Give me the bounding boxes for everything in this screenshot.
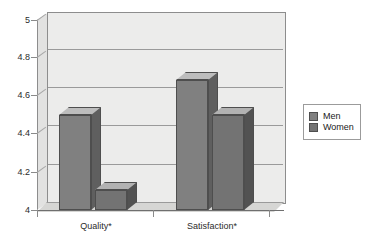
- gridline: [48, 49, 283, 50]
- gridline: [48, 87, 283, 88]
- y-tick-label: 4.6: [17, 91, 30, 100]
- y-tick-label: 4.2: [17, 168, 30, 177]
- bar-front-face: [95, 190, 127, 210]
- bar-men-satisfaction: [176, 72, 208, 210]
- bar-women-quality: [95, 182, 127, 210]
- y-tick-label: 4: [25, 206, 30, 215]
- bar-men-quality: [59, 107, 91, 210]
- legend-swatch-men: [309, 112, 318, 121]
- x-axis-label-satisfaction: Satisfaction*: [187, 222, 237, 231]
- legend-item-women: Women: [309, 123, 354, 132]
- bar-women-satisfaction: [212, 107, 244, 210]
- bar-chart: 5 4.8 4.6 4.4 4.2 4: [0, 0, 369, 243]
- x-axis-tick: [269, 210, 270, 217]
- y-tick-label: 4.8: [17, 53, 30, 62]
- y-tick-label: 5: [25, 16, 30, 25]
- x-axis-line: [37, 210, 284, 211]
- x-axis-label-quality: Quality*: [80, 222, 112, 231]
- x-axis-tick: [37, 210, 38, 217]
- bar-front-face: [59, 115, 91, 210]
- legend-item-men: Men: [309, 112, 354, 121]
- legend-swatch-women: [309, 123, 318, 132]
- bar-front-face: [212, 115, 244, 210]
- legend: Men Women: [303, 104, 361, 140]
- x-axis-tick: [153, 210, 154, 217]
- legend-label-men: Men: [323, 112, 341, 121]
- bar-front-face: [176, 80, 208, 210]
- y-axis: 5 4.8 4.6 4.4 4.2 4: [0, 0, 30, 243]
- y-tick-label: 4.4: [17, 129, 30, 138]
- legend-label-women: Women: [323, 123, 354, 132]
- bar-side-face: [244, 107, 254, 210]
